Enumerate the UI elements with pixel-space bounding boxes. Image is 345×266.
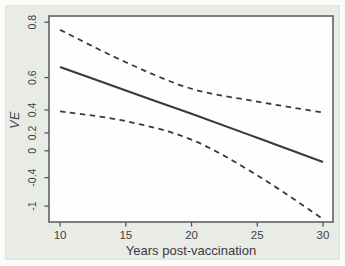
x-tick-label: 20 (185, 229, 198, 241)
x-tick-label: 15 (119, 229, 132, 241)
y-tick-label: -0.4 (26, 168, 38, 186)
x-axis-title: Years post-vaccination (49, 243, 333, 259)
y-tick-label: 0 (26, 148, 38, 154)
x-tick-label: 30 (317, 229, 330, 241)
y-axis-title: VE (2, 107, 28, 133)
y-tick-label: 0.8 (26, 15, 38, 30)
x-tick-label: 10 (54, 229, 67, 241)
ve-chart: 10152025300.80.60.40.20-0.4-1 (0, 0, 345, 266)
y-tick-label: -1 (26, 201, 38, 210)
y-tick-label: 0.6 (26, 70, 38, 85)
plot-area (49, 16, 333, 222)
x-tick-label: 25 (251, 229, 264, 241)
